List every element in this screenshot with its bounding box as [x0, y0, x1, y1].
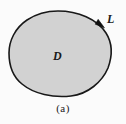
figure-container: D L (a) [0, 0, 126, 124]
figure-caption: (a) [0, 102, 126, 114]
curve-label-l: L [107, 13, 114, 25]
region-label-d: D [53, 50, 62, 62]
